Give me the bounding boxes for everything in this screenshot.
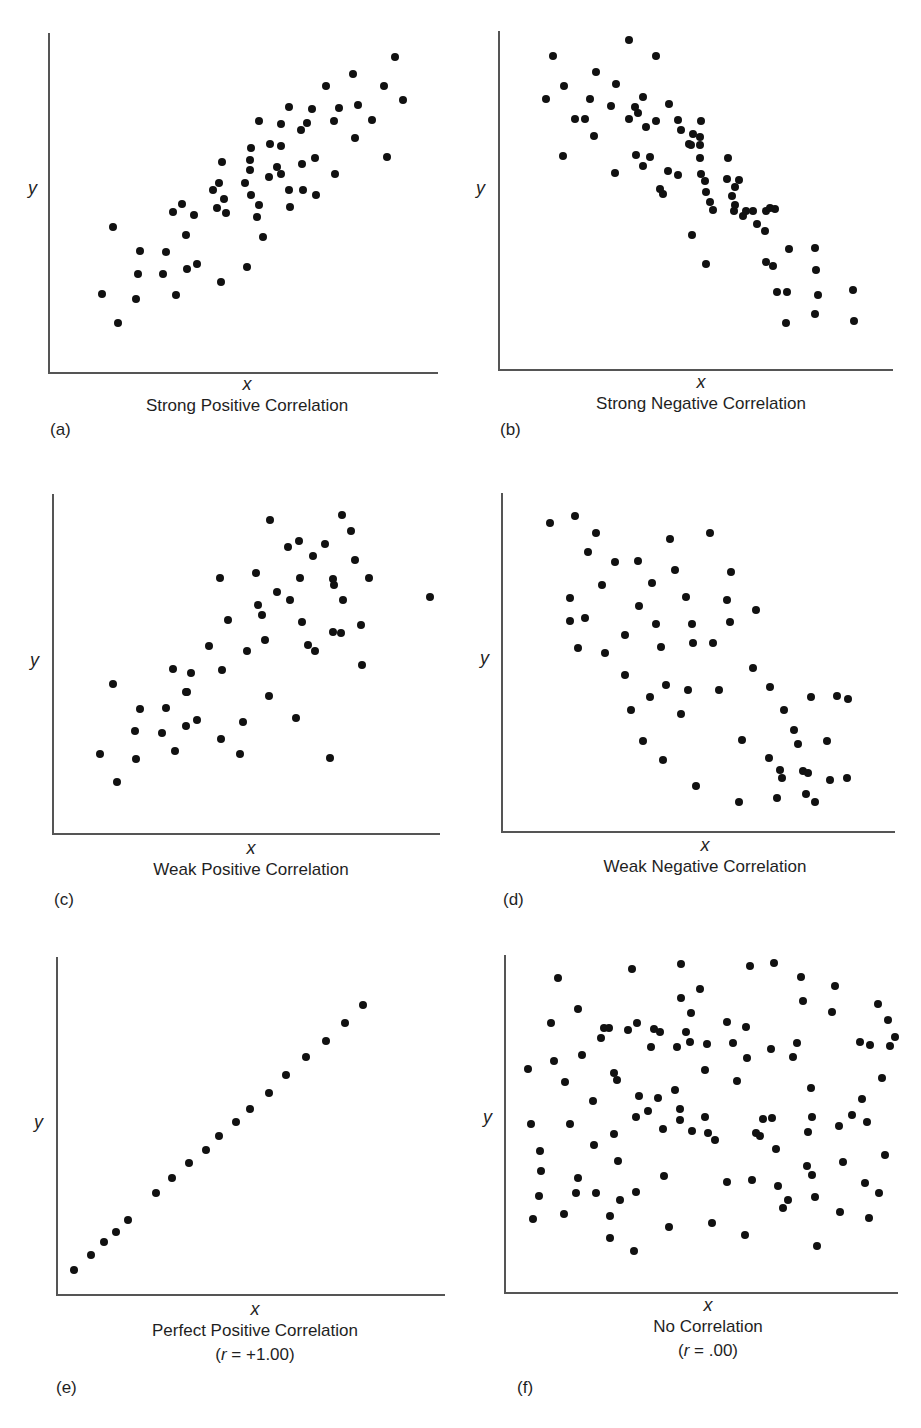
data-point [628, 965, 636, 973]
data-point [261, 636, 269, 644]
data-point [648, 579, 656, 587]
data-point [426, 593, 434, 601]
data-point [368, 116, 376, 124]
data-point [688, 231, 696, 239]
data-point [881, 1151, 889, 1159]
data-point [172, 291, 180, 299]
data-point [357, 621, 365, 629]
data-point [217, 278, 225, 286]
data-point [258, 611, 266, 619]
data-point [723, 1178, 731, 1186]
data-point [778, 774, 786, 782]
data-point [633, 1019, 641, 1027]
data-point [644, 1107, 652, 1115]
data-point [657, 643, 665, 651]
data-point [592, 1189, 600, 1197]
data-point [241, 179, 249, 187]
data-point [252, 569, 260, 577]
data-point [329, 575, 337, 583]
y-axis-label-b: y [476, 178, 485, 199]
panel-title-c: Weak Positive Correlation [153, 860, 348, 880]
data-point [131, 727, 139, 735]
data-point [297, 126, 305, 134]
data-point [735, 798, 743, 806]
data-point [536, 1147, 544, 1155]
data-point [770, 959, 778, 967]
data-point [686, 1038, 694, 1046]
data-point [639, 162, 647, 170]
data-point [98, 290, 106, 298]
panel-tag-f: (f) [517, 1378, 533, 1398]
data-point [295, 537, 303, 545]
data-point [205, 642, 213, 650]
data-point [646, 153, 654, 161]
data-point [756, 1132, 764, 1140]
data-point [738, 736, 746, 744]
data-point [823, 737, 831, 745]
data-point [100, 1238, 108, 1246]
data-point [266, 516, 274, 524]
data-point [773, 794, 781, 802]
data-point [255, 201, 263, 209]
data-point [136, 705, 144, 713]
data-point [802, 790, 810, 798]
data-point [689, 639, 697, 647]
data-point [351, 556, 359, 564]
data-point [193, 260, 201, 268]
scatter-panel-e [57, 957, 445, 1295]
panel-title-e: Perfect Positive Correlation [152, 1321, 358, 1341]
data-point [134, 270, 142, 278]
data-point [322, 1037, 330, 1045]
data-point [627, 706, 635, 714]
data-point [561, 1078, 569, 1086]
data-point [612, 80, 620, 88]
data-point [337, 629, 345, 637]
data-point [598, 581, 606, 589]
data-point [696, 985, 704, 993]
data-point [682, 593, 690, 601]
data-point [642, 123, 650, 131]
data-point [610, 1069, 618, 1077]
data-point [772, 1145, 780, 1153]
data-point [634, 109, 642, 117]
data-point [782, 319, 790, 327]
data-point [162, 704, 170, 712]
data-point [794, 740, 802, 748]
data-point [665, 1223, 673, 1231]
panel-title-d: Weak Negative Correlation [604, 857, 807, 877]
data-point [182, 231, 190, 239]
data-point [566, 594, 574, 602]
data-point [220, 195, 228, 203]
data-point [285, 186, 293, 194]
data-point [774, 1182, 782, 1190]
data-point [632, 1188, 640, 1196]
data-point [685, 140, 693, 148]
data-point [606, 1212, 614, 1220]
data-point [347, 527, 355, 535]
data-point [761, 227, 769, 235]
data-point [688, 1127, 696, 1135]
data-point [524, 1065, 532, 1073]
data-point [254, 601, 262, 609]
data-point [766, 683, 774, 691]
data-point [813, 1242, 821, 1250]
data-point [215, 179, 223, 187]
data-point [566, 617, 574, 625]
data-point [797, 973, 805, 981]
data-point [826, 776, 834, 784]
data-point [286, 596, 294, 604]
data-point [193, 716, 201, 724]
data-point [682, 1028, 690, 1036]
data-point [391, 53, 399, 61]
data-point [865, 1214, 873, 1222]
data-point [96, 750, 104, 758]
data-point [844, 695, 852, 703]
data-point [674, 116, 682, 124]
data-point [659, 756, 667, 764]
data-point [701, 1066, 709, 1074]
data-point [811, 244, 819, 252]
data-point [836, 1208, 844, 1216]
data-point [351, 134, 359, 142]
data-point [733, 1077, 741, 1085]
data-point [671, 1086, 679, 1094]
